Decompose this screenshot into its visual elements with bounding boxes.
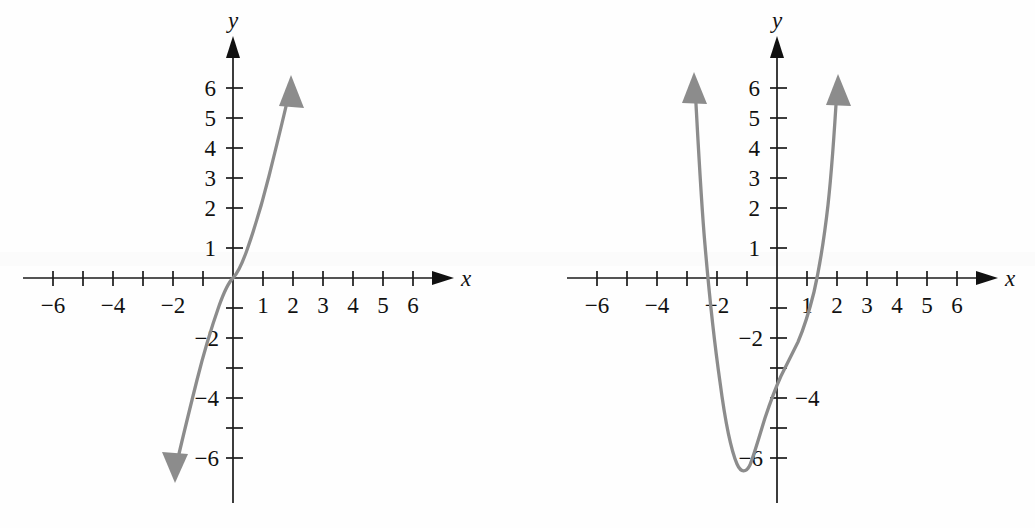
x-tick-label: 1 [257, 293, 269, 318]
x-axis-arrowhead [976, 271, 998, 285]
y-ticks [226, 88, 243, 458]
left-curve-down-arrowhead [162, 452, 188, 483]
y-axis-label: y [226, 8, 239, 33]
y-axis-arrowhead [770, 36, 784, 58]
y-tick-label: 1 [749, 236, 761, 261]
scan-band [0, 252, 515, 266]
y-tick-label: 1 [205, 236, 217, 261]
x-tick-label: −4 [645, 293, 670, 318]
y-tick-label: 5 [749, 106, 761, 131]
y-tick-label: −6 [195, 446, 219, 471]
x-tick-label: −6 [585, 293, 609, 318]
scan-band [515, 252, 1035, 266]
y-axis-arrowhead [226, 36, 240, 58]
figure-container: −6 −4 −2 1 2 3 4 5 6 6 5 4 3 2 1 −2 −4 −… [0, 0, 1035, 528]
y-tick-label: 3 [205, 166, 217, 191]
left-curve-up-arrowhead [279, 75, 304, 108]
x-tick-label: 2 [831, 293, 843, 318]
x-axis-arrowhead [432, 271, 454, 285]
y-tick-label: −4 [795, 386, 820, 411]
y-tick-label: 4 [205, 136, 217, 161]
y-tick-label: 2 [749, 196, 761, 221]
x-tick-label: 4 [347, 293, 359, 318]
x-tick-label: 2 [287, 293, 299, 318]
x-tick-label: −4 [101, 293, 126, 318]
y-ticks [770, 88, 787, 458]
x-axis-label: x [1004, 266, 1016, 291]
left-graph-panel: −6 −4 −2 1 2 3 4 5 6 6 5 4 3 2 1 −2 −4 −… [0, 0, 515, 528]
left-graph-svg: −6 −4 −2 1 2 3 4 5 6 6 5 4 3 2 1 −2 −4 −… [0, 0, 515, 528]
x-tick-label: 5 [377, 293, 389, 318]
right-curve-right-arrowhead [826, 74, 851, 106]
right-graph-panel: −6 −4 −2 1 2 3 4 5 6 6 5 4 3 2 1 −2 −4 −… [515, 0, 1035, 528]
x-tick-label: 6 [407, 293, 419, 318]
y-tick-label: 4 [749, 136, 761, 161]
x-tick-label: −6 [41, 293, 65, 318]
x-tick-label: −2 [161, 293, 185, 318]
y-tick-label: 3 [749, 166, 761, 191]
right-curve-left-arrowhead [682, 72, 707, 104]
y-tick-label: −2 [739, 326, 763, 351]
y-tick-label: 2 [205, 196, 217, 221]
x-axis-label: x [460, 266, 472, 291]
y-tick-label: −4 [195, 386, 220, 411]
x-tick-label: 3 [861, 293, 873, 318]
x-tick-label: 6 [951, 293, 963, 318]
y-tick-label: 6 [205, 76, 217, 101]
y-tick-label: 5 [205, 106, 217, 131]
x-tick-label: 3 [317, 293, 329, 318]
x-tick-label: 5 [921, 293, 933, 318]
right-graph-svg: −6 −4 −2 1 2 3 4 5 6 6 5 4 3 2 1 −2 −4 −… [515, 0, 1035, 528]
x-tick-label: 4 [891, 293, 903, 318]
y-tick-label: 6 [749, 76, 761, 101]
y-axis-label: y [770, 8, 783, 33]
